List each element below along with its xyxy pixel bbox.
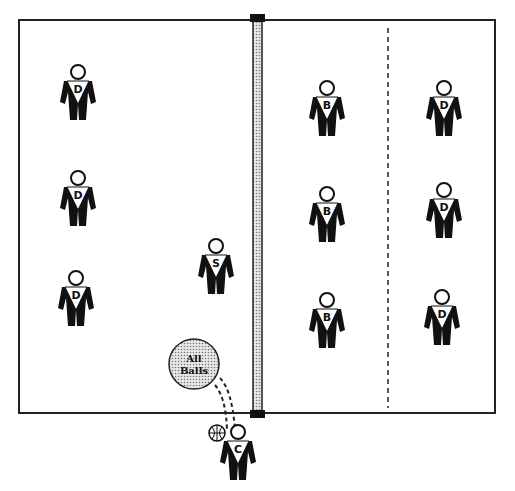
svg-text:All: All (185, 353, 202, 364)
volleyball-icon (209, 425, 225, 441)
svg-text:S: S (212, 257, 220, 270)
player-b: B (309, 81, 345, 136)
player-d: D (60, 171, 96, 226)
player-d: D (58, 271, 94, 326)
svg-text:D: D (437, 308, 446, 321)
player-d: D (426, 183, 462, 238)
svg-text:D: D (71, 289, 80, 302)
svg-text:B: B (323, 205, 331, 218)
net-post-top (250, 14, 265, 22)
net-post-bottom (250, 410, 265, 418)
net (253, 21, 262, 413)
player-b: B (309, 293, 345, 348)
ball-path (220, 378, 235, 430)
player-d: D (426, 81, 462, 136)
svg-text:D: D (439, 201, 448, 214)
svg-text:Balls: Balls (180, 365, 209, 376)
court-diagram: All Balls DDDSBBBDDDC (0, 0, 515, 491)
player-d: D (424, 290, 460, 345)
player-d: D (60, 65, 96, 120)
player-s: S (198, 239, 234, 294)
svg-text:D: D (73, 189, 82, 202)
svg-text:C: C (234, 443, 242, 456)
ball-cart: All Balls (169, 339, 219, 389)
svg-text:B: B (323, 99, 331, 112)
player-b: B (309, 187, 345, 242)
svg-text:B: B (323, 311, 331, 324)
svg-text:D: D (439, 99, 448, 112)
svg-text:D: D (73, 83, 82, 96)
ball-path (215, 385, 227, 430)
